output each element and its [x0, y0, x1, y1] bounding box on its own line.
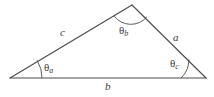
- angle-label-theta-b: θb: [119, 25, 128, 38]
- angle-label-theta-c: θc: [170, 58, 179, 71]
- side-label-b: b: [105, 81, 111, 92]
- theta-subscript-c: c: [175, 62, 179, 71]
- theta-subscript-b: b: [124, 29, 128, 38]
- triangle-figure: c a b θa θb θc: [0, 0, 214, 97]
- angle-c-arc: [181, 60, 189, 79]
- triangle-side-c-line: [10, 5, 132, 78]
- angle-a-arc: [37, 60, 42, 78]
- triangle-side-a-line: [132, 5, 206, 78]
- theta-subscript-a: a: [49, 66, 53, 75]
- side-label-c: c: [60, 27, 65, 38]
- angle-label-theta-a: θa: [44, 62, 53, 75]
- side-label-a: a: [173, 32, 179, 43]
